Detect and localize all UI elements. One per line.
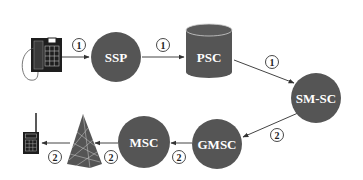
step-label-2a: 2 (271, 129, 284, 142)
node-smsc: SM-SC (291, 73, 341, 123)
mobile-phone-icon (23, 113, 39, 154)
svg-text:2: 2 (177, 152, 182, 163)
telephone-icon (22, 38, 62, 80)
sms-flow-diagram: 1 1 1 2 2 2 2 (0, 0, 363, 180)
svg-text:SSP: SSP (105, 50, 127, 65)
step-label-2b: 2 (173, 151, 186, 164)
svg-text:MSC: MSC (130, 135, 159, 150)
node-ssp: SSP (91, 32, 141, 82)
svg-text:GMSC: GMSC (198, 137, 237, 152)
svg-text:1: 1 (161, 40, 166, 51)
step-label-2d: 2 (49, 151, 62, 164)
svg-text:PSC: PSC (197, 50, 222, 65)
svg-text:2: 2 (109, 152, 114, 163)
antenna-tower-icon (67, 114, 102, 168)
svg-text:2: 2 (275, 130, 280, 141)
step-label-1b: 1 (157, 39, 170, 52)
svg-text:1: 1 (77, 40, 82, 51)
svg-text:2: 2 (53, 152, 58, 163)
node-msc: MSC (118, 116, 170, 168)
edge-psc-smsc (234, 60, 294, 83)
node-psc: PSC (186, 24, 232, 78)
step-label-1c: 1 (266, 56, 279, 69)
svg-text:1: 1 (270, 57, 275, 68)
step-label-2c: 2 (105, 151, 118, 164)
node-gmsc: GMSC (192, 119, 242, 169)
svg-text:SM-SC: SM-SC (296, 91, 336, 106)
step-label-1a: 1 (73, 39, 86, 52)
